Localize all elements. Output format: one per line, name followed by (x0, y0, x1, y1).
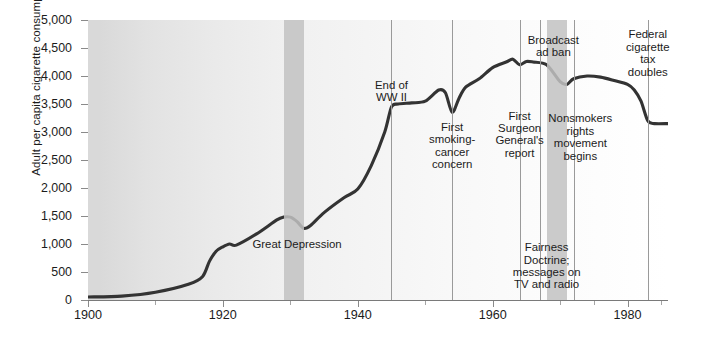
y-tick-label: 1,500 (14, 210, 72, 222)
x-tick-mark (223, 301, 224, 307)
y-tick-label: 4,500 (14, 42, 72, 54)
y-tick-label: 2,000 (14, 182, 72, 194)
y-tick-label: 1,000 (14, 238, 72, 250)
x-tick-mark-minor (155, 301, 156, 305)
y-tick-mark (81, 272, 88, 273)
y-tick-label: 3,500 (14, 98, 72, 110)
y-tick-label: 5,000 (14, 14, 72, 26)
x-tick-mark (493, 301, 494, 307)
x-tick-label: 1940 (344, 308, 372, 322)
x-tick-label: 1920 (209, 308, 237, 322)
chart-annotation: End of WW II (375, 79, 408, 104)
y-tick-mark (81, 188, 88, 189)
y-tick-label: 500 (14, 266, 72, 278)
y-tick-mark (81, 48, 88, 49)
y-tick-mark (81, 160, 88, 161)
y-tick-mark (81, 216, 88, 217)
y-tick-label: 2,500 (14, 154, 72, 166)
x-tick-mark (88, 301, 89, 307)
event-line (391, 20, 392, 300)
x-tick-mark-minor (290, 301, 291, 305)
chart-annotation: First Surgeon General's report (495, 110, 543, 160)
x-tick-label: 1900 (74, 308, 102, 322)
chart-annotation: Great Depression (252, 238, 341, 250)
chart-annotation: Broadcast ad ban (528, 34, 579, 59)
y-tick-mark (81, 76, 88, 77)
y-tick-mark (81, 300, 88, 301)
chart-figure: Adult per capita cigarette consumption 0… (0, 0, 708, 339)
x-axis-line (88, 300, 668, 301)
y-tick-mark (81, 244, 88, 245)
x-tick-mark-minor (661, 301, 662, 305)
y-tick-label: 3,000 (14, 126, 72, 138)
x-tick-mark-minor (560, 301, 561, 305)
y-tick-mark (81, 132, 88, 133)
x-tick-mark (358, 301, 359, 307)
y-tick-mark (81, 20, 88, 21)
chart-annotation: First smoking- cancer concern (429, 121, 475, 171)
chart-annotation: Fairness Doctrine; messages on TV and ra… (513, 241, 581, 291)
x-tick-label: 1960 (479, 308, 507, 322)
shaded-band (284, 20, 304, 300)
x-tick-mark-minor (425, 301, 426, 305)
y-tick-label: 4,000 (14, 70, 72, 82)
chart-annotation: Nonsmokers rights movement begins (548, 112, 612, 162)
y-tick-mark (81, 104, 88, 105)
y-tick-label: 0 (14, 294, 72, 306)
x-tick-label: 1980 (614, 308, 642, 322)
x-tick-mark-minor (594, 301, 595, 305)
chart-annotation: Federal cigarette tax doubles (626, 28, 670, 78)
x-tick-mark (628, 301, 629, 307)
